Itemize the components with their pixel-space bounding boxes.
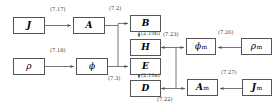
node-rho-m-subscript: m	[256, 44, 262, 50]
node-J-m-label: J	[252, 83, 256, 92]
node-phi[interactable]: ϕ	[76, 58, 108, 75]
node-phi-label: ϕ	[89, 62, 95, 71]
node-E-label: E	[142, 62, 149, 71]
node-J-label: J	[27, 21, 31, 30]
node-J-m-subscript: m	[256, 85, 262, 91]
diagram-canvas: J A B H ρ ϕ E D ϕm ρm Am Jm (7.17) (7.2)…	[0, 0, 278, 111]
arrowhead-B-input	[125, 22, 129, 25]
node-H-label: H	[141, 43, 150, 52]
node-phi-m[interactable]: ϕm	[186, 38, 216, 55]
arrowhead-Am-input-right	[220, 87, 224, 90]
equation-label-7-18: (7.18)	[50, 48, 66, 53]
equation-label-7-26: (7.26)	[218, 30, 234, 35]
node-A-m-label: A	[196, 83, 203, 92]
arrowhead-Am-input	[182, 87, 186, 90]
node-phi-m-label: ϕ	[195, 42, 201, 51]
equation-label-7-2: (7.2)	[109, 6, 121, 11]
equation-label-7-27: (7.27)	[221, 70, 237, 75]
node-A-label: A	[86, 21, 93, 30]
node-rho-m[interactable]: ρm	[241, 38, 272, 55]
equation-label-2-19b: (2.19b)	[141, 31, 160, 36]
node-rho[interactable]: ρ	[13, 58, 45, 75]
arrowhead-E-input	[125, 65, 129, 68]
node-phi-m-subscript: m	[201, 44, 207, 50]
node-A-m-subscript: m	[203, 85, 209, 91]
equation-label-7-3: (7.3)	[108, 76, 120, 81]
node-J-m[interactable]: Jm	[242, 79, 272, 96]
node-H[interactable]: H	[130, 39, 161, 56]
node-D[interactable]: D	[130, 80, 161, 97]
node-rho-m-label: ρ	[251, 42, 256, 51]
node-J[interactable]: J	[13, 17, 45, 34]
node-B-label: B	[142, 19, 150, 28]
equation-label-7-17: (7.17)	[50, 7, 66, 12]
node-D-label: D	[142, 84, 150, 93]
arrowhead-phi-input	[71, 65, 75, 68]
arrowhead-phim-input-right	[218, 46, 222, 49]
node-A[interactable]: A	[73, 17, 105, 34]
arrowhead-D-output	[161, 87, 165, 90]
equation-label-2-19a: (2.19a)	[141, 73, 160, 78]
equation-label-7-22: (7.22)	[157, 97, 173, 102]
equation-label-7-23: (7.23)	[163, 32, 179, 37]
arrowhead-phim-input	[181, 46, 185, 49]
node-A-m[interactable]: Am	[187, 79, 218, 96]
arrowhead-A-input	[68, 24, 72, 27]
node-rho-label: ρ	[26, 62, 31, 71]
arrowhead-H-output	[161, 46, 165, 49]
